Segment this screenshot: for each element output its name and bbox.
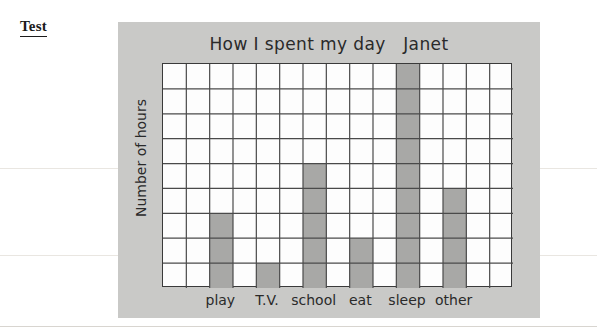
x-axis-label-other: other — [435, 292, 472, 308]
x-axis-label-tv: T.V. — [255, 292, 279, 308]
y-axis-title: Number of hours — [133, 73, 149, 243]
chart-panel: How I spent my day Janet Number of hours… — [118, 22, 540, 318]
plot-area — [162, 63, 512, 287]
x-axis-label-school: school — [291, 292, 336, 308]
page-bottom-rule — [0, 326, 597, 327]
x-axis-label-eat: eat — [349, 292, 372, 308]
bar-chart-grid — [163, 64, 513, 288]
bar-play — [210, 213, 233, 288]
x-axis-label-play: play — [206, 292, 236, 308]
x-axis-label-row: playT.V.schooleatsleepother — [162, 292, 512, 316]
bar-school — [303, 164, 326, 288]
x-axis-label-sleep: sleep — [388, 292, 425, 308]
bar-tv — [256, 263, 279, 288]
test-label: Test — [20, 18, 47, 37]
chart-title: How I spent my day Janet — [118, 34, 540, 54]
bar-sleep — [396, 64, 419, 288]
